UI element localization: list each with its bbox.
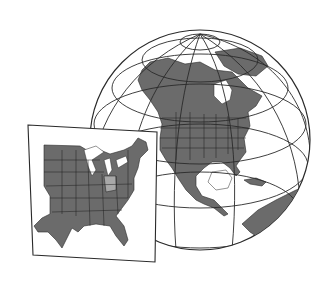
inset-map: [28, 125, 157, 262]
globe-illustration: [0, 0, 323, 286]
ohio-highlight: [104, 176, 116, 192]
